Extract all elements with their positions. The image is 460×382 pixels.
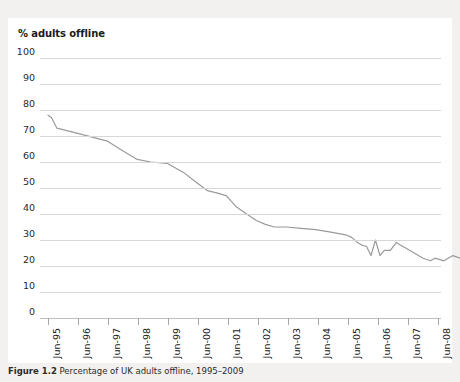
plot-area: 1009080706050403020100	[40, 58, 441, 318]
y-axis-label-50: 50	[23, 177, 35, 187]
x-axis-label-Jun-07: Jun-07	[412, 328, 422, 358]
x-axis-label-Jun-00: Jun-00	[202, 328, 212, 358]
chart-title: % adults offline	[18, 28, 105, 39]
x-axis-tick-Jun-08	[438, 318, 439, 325]
x-axis-tick-Jun-96	[78, 318, 79, 325]
x-axis-tick-Jun-05	[348, 318, 349, 325]
y-axis-label-0: 0	[29, 307, 35, 317]
y-axis-label-90: 90	[23, 73, 35, 83]
gridline-80	[40, 110, 441, 111]
chart-screenshot: % adults offline 1009080706050403020100 …	[0, 0, 460, 382]
figure-caption: Figure 1.2 Percentage of UK adults offli…	[8, 366, 452, 376]
gridline-40	[40, 214, 441, 215]
x-axis-label-Jun-99: Jun-99	[172, 328, 182, 358]
x-axis-label-Jun-06: Jun-06	[382, 328, 392, 358]
gridline-70	[40, 136, 441, 137]
gridline-0	[40, 318, 441, 319]
gridline-100	[40, 58, 441, 59]
x-axis-label-Jun-08: Jun-08	[442, 328, 452, 358]
gridline-10	[40, 292, 441, 293]
gridline-20	[40, 266, 441, 267]
x-axis-tick-Jun-02	[258, 318, 259, 325]
y-axis-label-40: 40	[23, 203, 35, 213]
x-axis-label-Jun-96: Jun-96	[82, 328, 92, 358]
x-axis-tick-Jun-07	[408, 318, 409, 325]
y-axis-label-70: 70	[23, 125, 35, 135]
y-axis-label-100: 100	[17, 47, 35, 57]
figure-caption-text: Percentage of UK adults offline, 1995–20…	[60, 366, 244, 376]
x-axis-label-Jun-03: Jun-03	[292, 328, 302, 358]
gridline-90	[40, 84, 441, 85]
x-axis-label-Jun-98: Jun-98	[142, 328, 152, 358]
gridline-30	[40, 240, 441, 241]
x-axis-label-Jun-05: Jun-05	[352, 328, 362, 358]
x-axis-tick-Jun-06	[378, 318, 379, 325]
x-axis-tick-Jun-04	[318, 318, 319, 325]
y-axis-label-20: 20	[23, 255, 35, 265]
chart-card: % adults offline 1009080706050403020100 …	[8, 18, 452, 363]
x-axis-tick-Jun-03	[288, 318, 289, 325]
x-axis-label-Jun-04: Jun-04	[322, 328, 332, 358]
y-axis-label-10: 10	[23, 281, 35, 291]
x-axis-tick-Jun-99	[168, 318, 169, 325]
x-axis-tick-Jun-98	[138, 318, 139, 325]
gridline-60	[40, 162, 441, 163]
x-axis-label-Jun-02: Jun-02	[262, 328, 272, 358]
y-axis-label-60: 60	[23, 151, 35, 161]
x-axis-tick-Jun-01	[228, 318, 229, 325]
x-axis-label-Jun-95: Jun-95	[52, 328, 62, 358]
x-axis-label-Jun-97: Jun-97	[112, 328, 122, 358]
x-axis-tick-Jun-00	[198, 318, 199, 325]
y-axis-label-80: 80	[23, 99, 35, 109]
x-axis-tick-Jun-97	[108, 318, 109, 325]
figure-caption-label: Figure 1.2	[8, 366, 57, 376]
x-axis-label-Jun-01: Jun-01	[232, 328, 242, 358]
y-axis-label-30: 30	[23, 229, 35, 239]
gridline-50	[40, 188, 441, 189]
x-axis-tick-Jun-95	[48, 318, 49, 325]
